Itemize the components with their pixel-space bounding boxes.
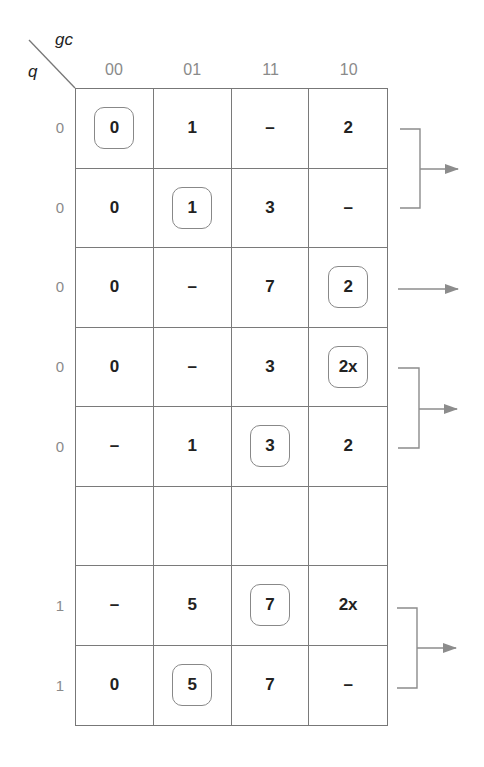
cell-value: – bbox=[265, 118, 274, 138]
kmap-cell: 7 bbox=[232, 566, 310, 646]
cell-value: 1 bbox=[187, 436, 196, 456]
row-label: 1 bbox=[52, 677, 68, 694]
kmap-cell bbox=[232, 487, 310, 567]
kmap-cell: 0 bbox=[76, 646, 154, 726]
kmap-cell: – bbox=[154, 328, 232, 408]
cell-value: 2 bbox=[343, 118, 352, 138]
cell-value: – bbox=[343, 675, 352, 695]
kmap-cell: 0 bbox=[76, 248, 154, 328]
row-label: 0 bbox=[52, 119, 68, 136]
cell-value: – bbox=[343, 198, 352, 218]
kmap-cell: 0 bbox=[76, 89, 154, 169]
kmap-cell: 7 bbox=[232, 248, 310, 328]
cell-value: 0 bbox=[110, 277, 119, 297]
highlighted-cell-value: 2x bbox=[328, 346, 368, 388]
highlighted-cell-value: 1 bbox=[172, 187, 212, 229]
cell-value: 3 bbox=[265, 357, 274, 377]
column-header: 11 bbox=[232, 61, 310, 79]
column-header: 10 bbox=[310, 61, 388, 79]
row-label: 0 bbox=[52, 438, 68, 455]
kmap-cell: 3 bbox=[232, 407, 310, 487]
cell-value: – bbox=[187, 357, 196, 377]
kmap-cell: 0 bbox=[76, 169, 154, 249]
row-label: 1 bbox=[52, 597, 68, 614]
corner-diagonal bbox=[29, 40, 75, 88]
cell-value: 5 bbox=[187, 595, 196, 615]
kmap-cell: 5 bbox=[154, 566, 232, 646]
kmap-cell: – bbox=[76, 407, 154, 487]
kmap-cell: – bbox=[309, 646, 387, 726]
kmap-cell: 0 bbox=[76, 328, 154, 408]
cell-value: 1 bbox=[187, 118, 196, 138]
kmap-cell: 2 bbox=[309, 248, 387, 328]
bracket-rows-7-8 bbox=[397, 608, 456, 688]
kmap-cell: – bbox=[232, 89, 310, 169]
cell-value: 2 bbox=[343, 436, 352, 456]
cell-value: – bbox=[110, 436, 119, 456]
kmap-cell: 1 bbox=[154, 169, 232, 249]
kmap-cell: 2 bbox=[309, 407, 387, 487]
kmap-cell: – bbox=[76, 566, 154, 646]
kmap-cell: 5 bbox=[154, 646, 232, 726]
row-label: 0 bbox=[52, 278, 68, 295]
column-header: 00 bbox=[75, 61, 153, 79]
cell-value: 7 bbox=[265, 277, 274, 297]
highlighted-cell-value: 2 bbox=[328, 266, 368, 308]
bracket-rows-1-2 bbox=[400, 129, 458, 208]
cell-value: 0 bbox=[110, 198, 119, 218]
kmap-cell: 3 bbox=[232, 169, 310, 249]
kmap-cell: 2 bbox=[309, 89, 387, 169]
kmap-grid: 01–2013–0–720–32x–132–572x057– bbox=[75, 88, 388, 726]
kmap-cell: – bbox=[154, 248, 232, 328]
cell-value: 0 bbox=[110, 357, 119, 377]
cell-value: 2x bbox=[339, 595, 358, 615]
highlighted-cell-value: 5 bbox=[172, 664, 212, 706]
cell-value: 0 bbox=[110, 675, 119, 695]
kmap-cell bbox=[154, 487, 232, 567]
row-label: 0 bbox=[52, 358, 68, 375]
column-header: 01 bbox=[153, 61, 231, 79]
cell-value: – bbox=[187, 277, 196, 297]
cell-value: 3 bbox=[265, 198, 274, 218]
bracket-rows-4-5 bbox=[398, 368, 457, 448]
kmap-cell: 2x bbox=[309, 328, 387, 408]
highlighted-cell-value: 3 bbox=[250, 425, 290, 467]
kmap-cell: – bbox=[309, 169, 387, 249]
kmap-cell: 1 bbox=[154, 407, 232, 487]
highlighted-cell-value: 7 bbox=[250, 584, 290, 626]
cell-value: – bbox=[110, 595, 119, 615]
kmap-cell bbox=[309, 487, 387, 567]
kmap-cell: 1 bbox=[154, 89, 232, 169]
kmap-cell: 7 bbox=[232, 646, 310, 726]
kmap-cell bbox=[76, 487, 154, 567]
highlighted-cell-value: 0 bbox=[94, 107, 134, 149]
kmap-cell: 2x bbox=[309, 566, 387, 646]
kmap-cell: 3 bbox=[232, 328, 310, 408]
row-label: 0 bbox=[52, 199, 68, 216]
cell-value: 7 bbox=[265, 675, 274, 695]
